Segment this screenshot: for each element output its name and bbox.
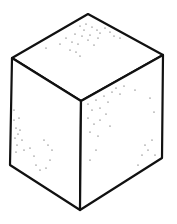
cube-drawing bbox=[0, 0, 177, 224]
